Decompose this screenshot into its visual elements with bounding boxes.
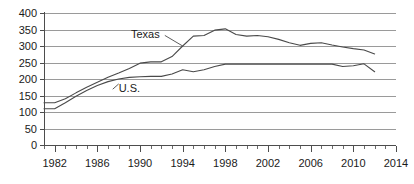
axes-group xyxy=(44,12,396,146)
x-tick-label-1982: 1982 xyxy=(42,157,66,169)
y-axis-tick-labels: 050100150200250300350400 xyxy=(19,7,37,151)
y-tick-label-150: 150 xyxy=(19,90,37,102)
x-tick-label-2010: 2010 xyxy=(341,157,365,169)
chart-container: 050100150200250300350400 198219861990199… xyxy=(0,0,414,184)
x-tick-label-1994: 1994 xyxy=(170,157,194,169)
x-tick-label-1990: 1990 xyxy=(128,157,152,169)
y-tick-label-200: 200 xyxy=(19,73,37,85)
x-tick-label-2014: 2014 xyxy=(384,157,408,169)
tickmarks-group xyxy=(40,14,397,152)
line-chart: 050100150200250300350400 198219861990199… xyxy=(0,0,414,184)
gridlines-group xyxy=(44,14,396,130)
y-tick-label-50: 50 xyxy=(25,123,37,135)
series-line-texas xyxy=(44,29,375,103)
x-tick-label-2002: 2002 xyxy=(256,157,280,169)
series-label-texas: Texas xyxy=(131,28,160,40)
y-tick-label-300: 300 xyxy=(19,40,37,52)
series-label-u-s: U.S. xyxy=(119,82,140,94)
leader-line-texas xyxy=(165,35,183,46)
x-tick-label-1986: 1986 xyxy=(85,157,109,169)
y-tick-label-400: 400 xyxy=(19,7,37,19)
y-tick-label-0: 0 xyxy=(31,139,37,151)
y-tick-label-250: 250 xyxy=(19,57,37,69)
x-axis-tick-labels: 198219861990199419982002200620102014 xyxy=(42,157,408,169)
x-tick-label-2006: 2006 xyxy=(298,157,322,169)
y-tick-label-350: 350 xyxy=(19,24,37,36)
series-annotations: TexasU.S. xyxy=(113,28,183,94)
series-line-u-s xyxy=(44,64,375,109)
y-tick-label-100: 100 xyxy=(19,106,37,118)
x-tick-label-1998: 1998 xyxy=(213,157,237,169)
